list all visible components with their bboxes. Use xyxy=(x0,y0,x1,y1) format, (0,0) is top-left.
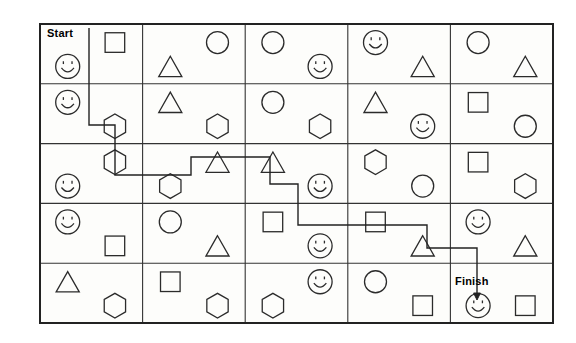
grid-cell[interactable] xyxy=(40,144,143,204)
finish-label: Finish xyxy=(455,275,489,287)
maze-worksheet: Start Finish xyxy=(0,0,576,343)
grid-cell[interactable] xyxy=(40,84,143,144)
maze-grid-svg xyxy=(0,0,576,343)
grid-cell[interactable] xyxy=(40,263,143,323)
grid-cell[interactable] xyxy=(450,24,553,84)
grid-cell[interactable] xyxy=(245,24,348,84)
grid-cell[interactable] xyxy=(143,24,246,84)
grid-cell[interactable] xyxy=(245,144,348,204)
grid-cell[interactable] xyxy=(450,84,553,144)
grid-cell[interactable] xyxy=(143,84,246,144)
grid-cell[interactable] xyxy=(450,203,553,263)
start-label: Start xyxy=(47,27,73,39)
grid-cell[interactable] xyxy=(245,203,348,263)
grid-cell[interactable] xyxy=(143,263,246,323)
grid-cell[interactable] xyxy=(245,263,348,323)
grid-cell[interactable] xyxy=(348,84,451,144)
grid-cell[interactable] xyxy=(245,84,348,144)
grid-cell[interactable] xyxy=(143,144,246,204)
grid-cell[interactable] xyxy=(450,263,553,323)
grid-cell[interactable] xyxy=(348,203,451,263)
grid-cell[interactable] xyxy=(348,24,451,84)
grid-cell[interactable] xyxy=(348,263,451,323)
grid-cell[interactable] xyxy=(450,144,553,204)
grid-cell[interactable] xyxy=(40,203,143,263)
grid-cell[interactable] xyxy=(143,203,246,263)
grid-cell[interactable] xyxy=(348,144,451,204)
